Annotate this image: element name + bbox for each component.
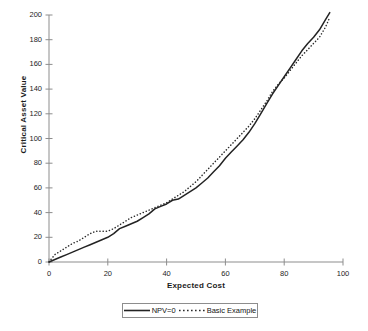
y-tick-label: 200 (16, 10, 42, 19)
legend-swatch-dotted-icon (179, 307, 205, 314)
series-path-2 (49, 17, 330, 262)
axis-layer (49, 15, 343, 262)
x-tick-label: 100 (330, 269, 356, 278)
series-path-1 (49, 13, 330, 262)
tick-layer (46, 15, 344, 266)
x-tick-label: 0 (36, 269, 62, 278)
legend-swatch-solid-icon (124, 307, 150, 314)
y-axis-title: Critical Asset Value (19, 45, 28, 185)
x-tick-label: 60 (212, 269, 238, 278)
chart-legend: NPV=0 Basic Example (122, 303, 258, 318)
series-layer (49, 13, 330, 262)
legend-item-npv: NPV=0 (124, 307, 176, 315)
y-tick-label: 20 (16, 232, 42, 241)
x-tick-label: 40 (154, 269, 180, 278)
x-axis-title: Expected Cost (49, 281, 343, 290)
y-tick-label: 40 (16, 208, 42, 217)
x-tick-label: 20 (95, 269, 121, 278)
legend-item-basic-example: Basic Example (179, 307, 257, 315)
legend-label-npv: NPV=0 (152, 307, 176, 315)
y-tick-label: 180 (16, 35, 42, 44)
legend-label-basic-example: Basic Example (207, 307, 257, 315)
chart-figure: 020406080100120140160180200 020406080100… (0, 0, 368, 331)
y-tick-label: 0 (16, 257, 42, 266)
x-tick-label: 80 (271, 269, 297, 278)
legend-entries: NPV=0 Basic Example (123, 304, 257, 317)
